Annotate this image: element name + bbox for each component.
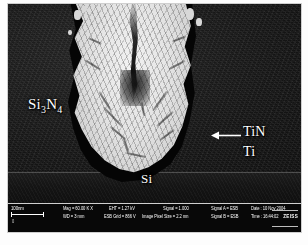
label-ti: Ti bbox=[243, 144, 255, 160]
data-bar-fields: Mag = 60.00 K X EHT = 1.27 kV Signal = 1… bbox=[8, 205, 301, 224]
field-time: Time : 16:44:02 bbox=[251, 212, 279, 222]
surface-particle bbox=[74, 10, 81, 20]
field-signal-b: Signal B = ESB bbox=[211, 212, 238, 222]
plug-center-void-blob bbox=[120, 70, 150, 106]
field-esb-grid: ESB Grid = 866 V bbox=[104, 212, 136, 222]
label-tin: TiN bbox=[243, 124, 266, 140]
surface-particle bbox=[82, 6, 87, 12]
figure-caption bbox=[16, 234, 292, 244]
logo-rule-top bbox=[272, 210, 298, 211]
arrow-left-icon bbox=[211, 131, 241, 140]
label-silicon-nitride: Si3N4 bbox=[28, 96, 62, 115]
field-file-name: File Name = Section-18.tif bbox=[8, 223, 301, 231]
data-bar-row-2: WD = 3 mm ESB Grid = 866 V Image Pixel S… bbox=[8, 213, 301, 221]
zeiss-logo: ZEISS bbox=[283, 213, 298, 220]
logo-rule-bottom bbox=[272, 226, 298, 227]
field-wd: WD = 3 mm bbox=[63, 212, 84, 222]
surface-particle bbox=[196, 18, 202, 26]
sem-data-bar: 100nm 0 Mag = 60.00 K X EHT = 1.27 kV Si… bbox=[8, 204, 301, 232]
field-image-pixel-size: Image Pixel Size = 2.2 nm bbox=[142, 212, 188, 222]
label-si: Si bbox=[141, 171, 152, 187]
micrograph-image: Si3N4 TiN Ti Si bbox=[8, 4, 301, 232]
surface-particle bbox=[186, 8, 194, 20]
surface-particle bbox=[68, 30, 72, 35]
sem-figure: Si3N4 TiN Ti Si 100nm 0 Mag = 60.00 K X … bbox=[0, 0, 308, 245]
